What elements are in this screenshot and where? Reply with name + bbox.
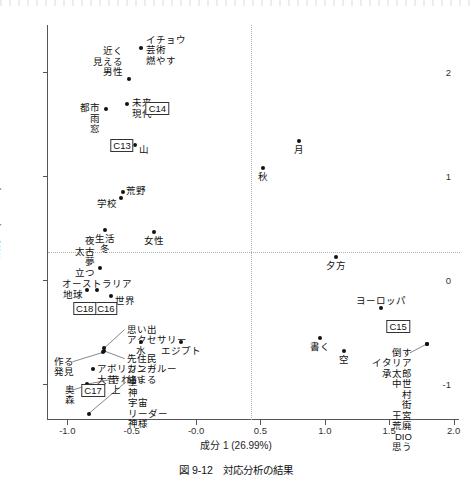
scatter-point [334,255,338,259]
point-label: 夜 太古 夢 立つ [75,236,95,278]
y-tick-mark [43,72,48,73]
scatter-point [127,77,131,81]
scatter-point [91,367,95,371]
x-tick-label: -0.5 [124,425,140,436]
annotation-label: 奥 森 [65,385,75,406]
annotation-label: 星 神 宇宙 リーダー 神様 [128,377,168,430]
x-tick-label: -0.0 [188,425,204,436]
y-tick-mark [43,280,48,281]
point-label: オーストラリア [62,279,132,290]
x-tick-label: 1.5 [383,425,396,436]
y-axis-title: 成分 2 (22.62%) [0,187,2,259]
point-label: 書く [310,342,330,353]
scatter-point [125,102,129,106]
point-label: 地球 [63,290,83,301]
figure-caption: 図 9-12 対応分析の結果 [0,462,472,477]
scatter-point [139,46,143,50]
scatter-point [119,196,123,200]
scan-artifact [0,0,472,6]
scatter-point [342,349,346,353]
point-label: 学校 [97,199,117,210]
plot-frame: イチョウ 芸術 燃やす近く 見える 男性未来 現代都市 雨 窓山月秋荒野学校生活… [47,25,459,420]
cluster-label-c16: C16 [94,302,117,315]
cluster-label-c14: C14 [146,102,169,115]
scatter-point [152,230,156,234]
x-axis-title: 成分 1 (26.99%) [0,437,472,452]
scatter-point [318,336,322,340]
scatter-point [98,266,102,270]
scatter-point [379,306,383,310]
x-tick-label: -1.0 [59,425,75,436]
y-tick-label: 2 [446,66,451,77]
point-label: 世界 [115,296,135,307]
gridline-x-zero [251,25,252,420]
annotation-label: 思い出 アクセサリー [127,325,187,346]
scatter-point [109,294,113,298]
point-label: 夕方 [326,261,346,272]
scatter-point [261,166,265,170]
point-label: 女性 [144,236,164,247]
y-tick-mark [43,176,48,177]
x-tick-label: 2.0 [447,425,460,436]
y-tick-label: 0 [446,274,451,285]
point-label: 荒野 [126,186,146,197]
point-label: 空 [339,355,349,366]
cluster-label-c18: C18 [73,302,96,315]
scatter-point [104,107,108,111]
scatter-point [297,139,301,143]
y-tick-mark [43,384,48,385]
point-label: 山 [139,145,149,156]
cluster-label-c13: C13 [110,139,133,152]
scatter-point [103,228,107,232]
x-tick-label: 1.0 [318,425,331,436]
point-label: 月 [294,145,304,156]
figure-container: イチョウ 芸術 燃やす近く 見える 男性未来 現代都市 雨 窓山月秋荒野学校生活… [0,0,472,498]
x-tick-label: 0.5 [254,425,267,436]
point-label: ヨーロッパ [356,296,406,307]
plot-canvas: イチョウ 芸術 燃やす近く 見える 男性未来 現代都市 雨 窓山月秋荒野学校生活… [48,25,460,420]
cluster-label-c15: C15 [386,320,409,333]
cluster-label-c17: C17 [81,384,104,397]
scatter-point [425,342,429,346]
point-label: 生活 冬 [95,234,115,255]
point-label: 近く 見える 男性 [93,46,123,78]
y-tick-label: 1 [446,170,451,181]
point-label: イチョウ 芸術 燃やす [146,35,186,67]
scatter-point [101,350,105,354]
annotation-label: 作る 発見 [54,357,74,378]
point-label: 秋 [258,172,268,183]
point-label: 都市 雨 窓 [80,103,100,135]
scatter-point [121,190,125,194]
scatter-point [87,412,91,416]
y-tick-label: -1 [443,378,451,389]
